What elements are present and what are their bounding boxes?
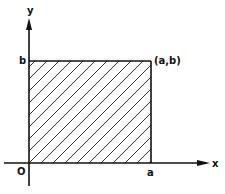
x-axis-arrow-icon [197,160,210,166]
origin-label: O [17,166,26,177]
y-tick-label-b: b [19,55,26,66]
x-axis-label: x [212,158,219,169]
corner-label: (a,b) [154,55,181,66]
hatch-pattern [0,61,225,175]
y-axis-arrow-icon [26,18,32,30]
x-tick-label-a: a [147,167,154,178]
diagram-canvas: y b (a,b) O a x [0,0,225,194]
y-axis-label: y [27,5,34,16]
